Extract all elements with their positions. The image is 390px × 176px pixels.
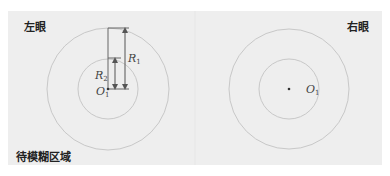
left-eye-label: 左眼 [24, 18, 46, 34]
left-center-label: O1 [96, 85, 110, 99]
right-center-label: O1 [306, 83, 320, 97]
r1-label: R1 [127, 52, 141, 66]
right-center-point [288, 88, 291, 91]
left-center-point [107, 88, 110, 91]
blur-region-label: 待模糊区域 [16, 148, 71, 164]
r2-label: R2 [94, 69, 108, 83]
right-eye-label: 右眼 [347, 18, 369, 34]
